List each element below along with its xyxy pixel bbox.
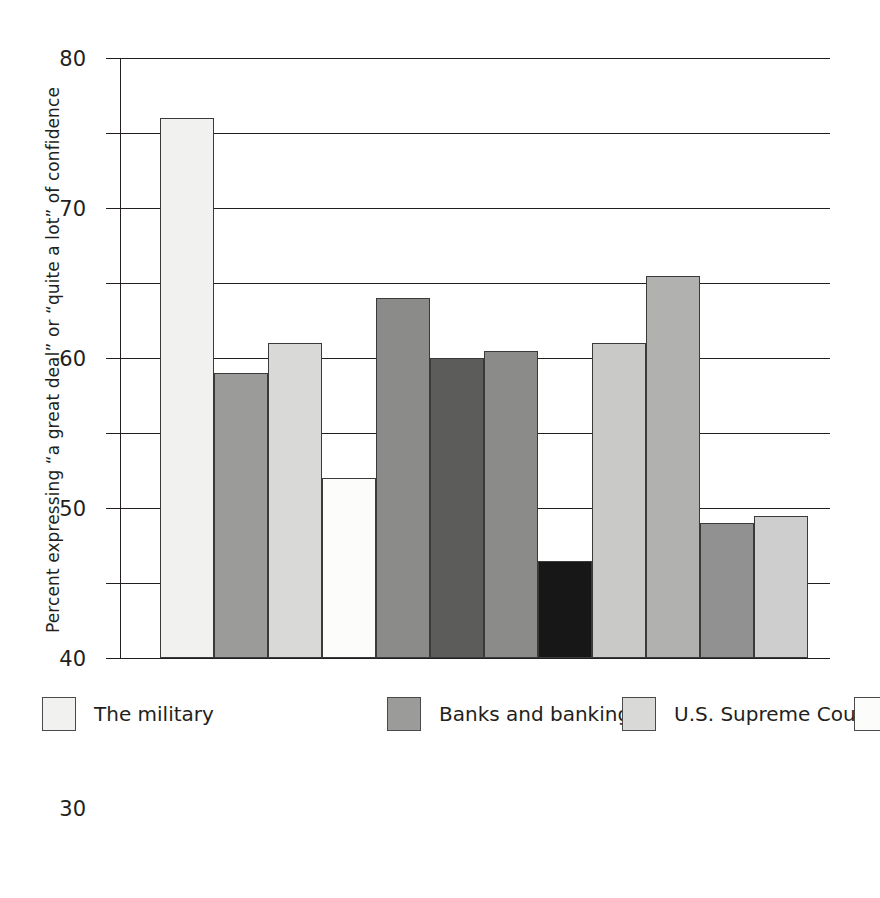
bar [646, 276, 700, 659]
legend-label: The military [94, 702, 214, 726]
bar [376, 298, 430, 658]
y-axis-tick-label: 40 [59, 647, 86, 671]
y-axis-tick: 70 [106, 133, 120, 134]
bar [322, 478, 376, 658]
bar [214, 373, 268, 658]
bars-layer [120, 58, 830, 658]
y-axis-tick-label: 30 [59, 797, 86, 821]
y-axis-tick-label: 60 [59, 347, 86, 371]
x-axis-line [120, 658, 830, 659]
y-axis-tick: 40 [106, 358, 120, 359]
y-axis-tick: 10 [106, 583, 120, 584]
legend-swatch [622, 697, 656, 731]
y-axis-tick-label: 50 [59, 497, 86, 521]
legend-item: The military [42, 697, 387, 731]
y-axis-tick: 80 [106, 58, 120, 59]
bar [484, 351, 538, 659]
y-axis-tick: 30 [106, 433, 120, 434]
chart-legend: The militaryBanks and bankingU.S. Suprem… [42, 690, 854, 737]
legend-label: Banks and banking [439, 702, 630, 726]
legend-swatch [387, 697, 421, 731]
bar [754, 516, 808, 659]
bar [538, 561, 592, 659]
y-axis-tick: 60 [106, 208, 120, 209]
bar [700, 523, 754, 658]
y-axis-tick: 50 [106, 283, 120, 284]
y-axis-tick-label: 70 [59, 197, 86, 221]
legend-item: Banks and banking [387, 697, 622, 731]
legend-swatch [42, 697, 76, 731]
legend-item: U.S. Supreme Court [622, 697, 854, 731]
y-axis-tick: 0 [106, 658, 120, 659]
bar-chart-figure: Percent expressing “a great deal” or “qu… [0, 0, 880, 898]
bar [268, 343, 322, 658]
legend-item: Newspapers [854, 697, 880, 731]
bar [160, 118, 214, 658]
y-axis-tick-label: 80 [59, 47, 86, 71]
bar [592, 343, 646, 658]
y-axis-tick: 20 [106, 508, 120, 509]
bar [430, 358, 484, 658]
plot-area: 01020304050607080 [120, 58, 830, 658]
legend-label: U.S. Supreme Court [674, 702, 872, 726]
legend-swatch [854, 697, 880, 731]
